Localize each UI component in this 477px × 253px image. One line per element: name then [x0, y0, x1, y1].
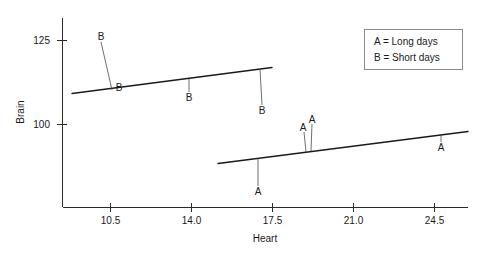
data-point-label-a2: A — [300, 122, 307, 133]
data-point-label-b3: B — [186, 92, 193, 103]
data-point-label-b4: B — [259, 105, 266, 116]
x-axis-title: Heart — [253, 233, 278, 244]
chart-container: 125 100 Brain 10.5 14.0 17.5 21.0 24.5 H… — [0, 0, 477, 253]
series-b-leader-4 — [260, 69, 262, 105]
data-point-label-a4: A — [438, 142, 445, 153]
series-b-leader-1 — [101, 42, 112, 90]
x-tick-label-10-5: 10.5 — [101, 215, 121, 226]
data-point-label-b2: B — [116, 82, 123, 93]
series-b-fit-line — [72, 68, 272, 94]
series-a-leader-3 — [311, 124, 312, 151]
series-a-leader-2 — [304, 132, 306, 152]
x-tick-label-24-5: 24.5 — [425, 215, 445, 226]
x-tick-label-17-5: 17.5 — [263, 215, 283, 226]
y-tick-label-125: 125 — [33, 35, 50, 46]
series-a-fit-line — [218, 132, 468, 164]
x-tick-label-21-0: 21.0 — [344, 215, 364, 226]
legend-entry-long-days: A = Long days — [374, 36, 438, 47]
legend-entry-short-days: B = Short days — [374, 52, 440, 63]
y-axis-title: Brain — [15, 100, 26, 123]
scatter-plot-svg: 125 100 Brain 10.5 14.0 17.5 21.0 24.5 H… — [0, 0, 477, 253]
data-point-label-a3: A — [309, 114, 316, 125]
data-point-label-b1: B — [98, 31, 105, 42]
x-tick-label-14-0: 14.0 — [182, 215, 202, 226]
y-tick-label-100: 100 — [33, 119, 50, 130]
data-point-label-a1: A — [255, 186, 262, 197]
